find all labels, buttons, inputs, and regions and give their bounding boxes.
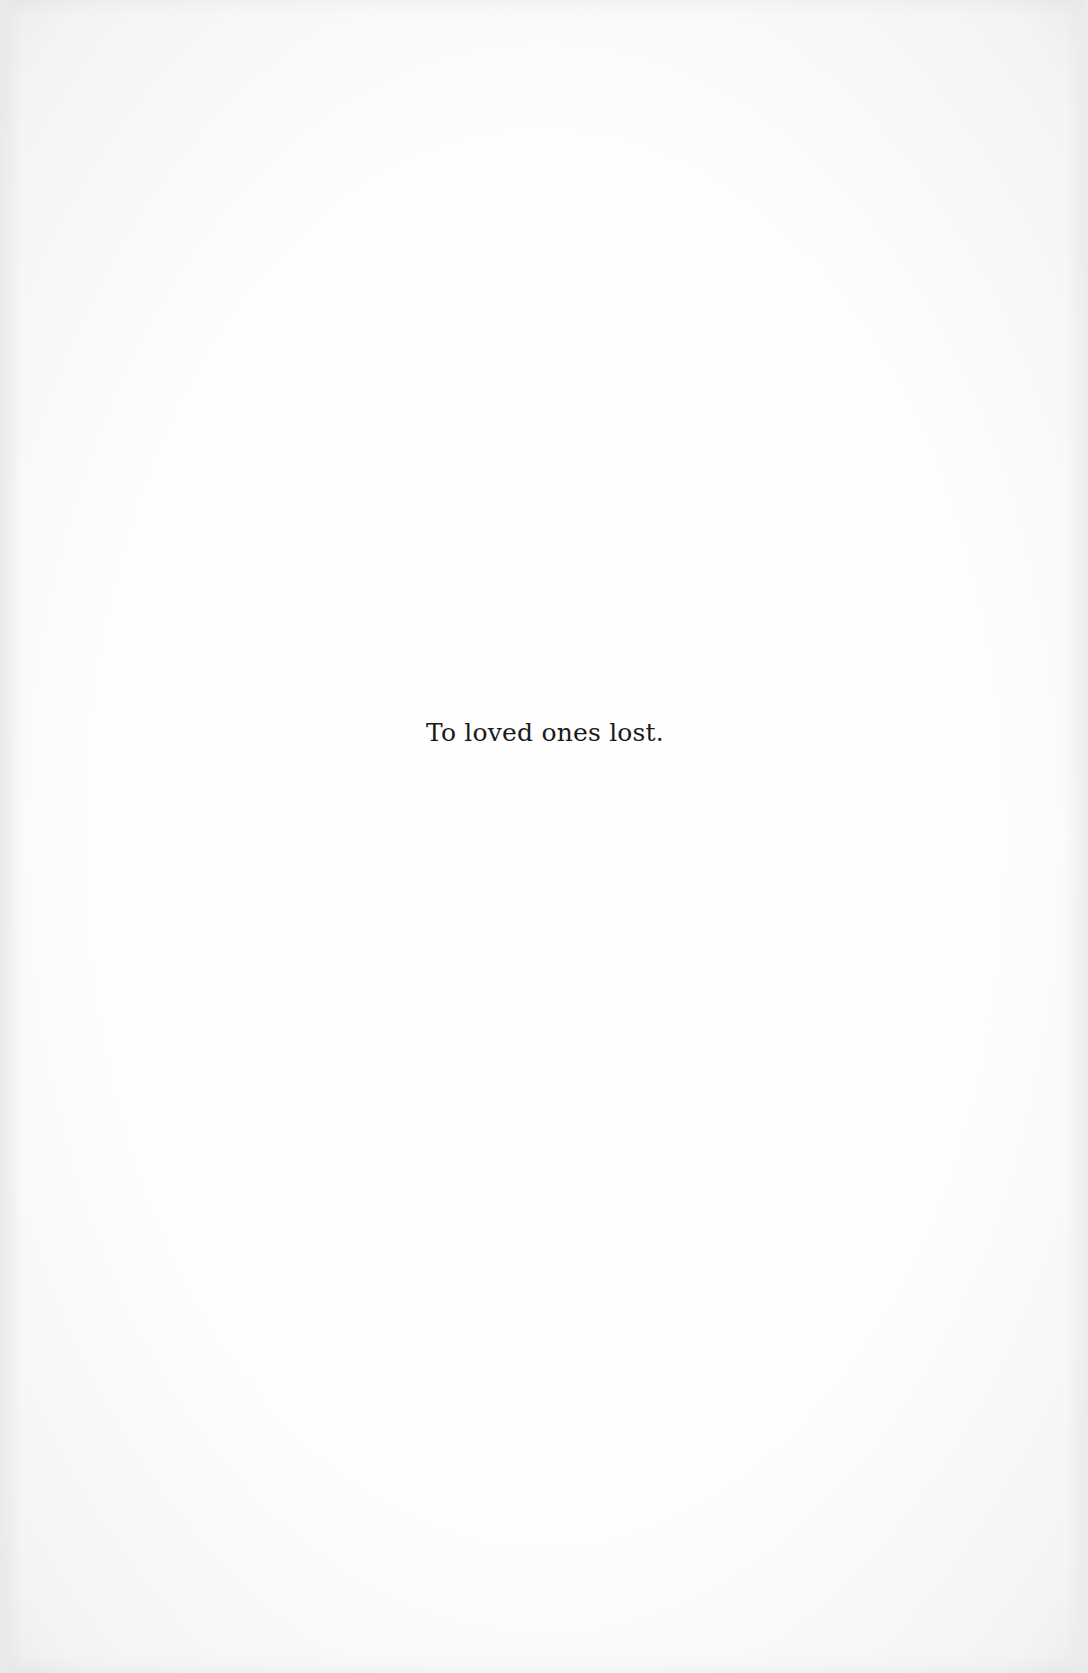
book-page: To loved ones lost. [0, 0, 1088, 1673]
dedication-text: To loved ones lost. [0, 718, 1088, 747]
